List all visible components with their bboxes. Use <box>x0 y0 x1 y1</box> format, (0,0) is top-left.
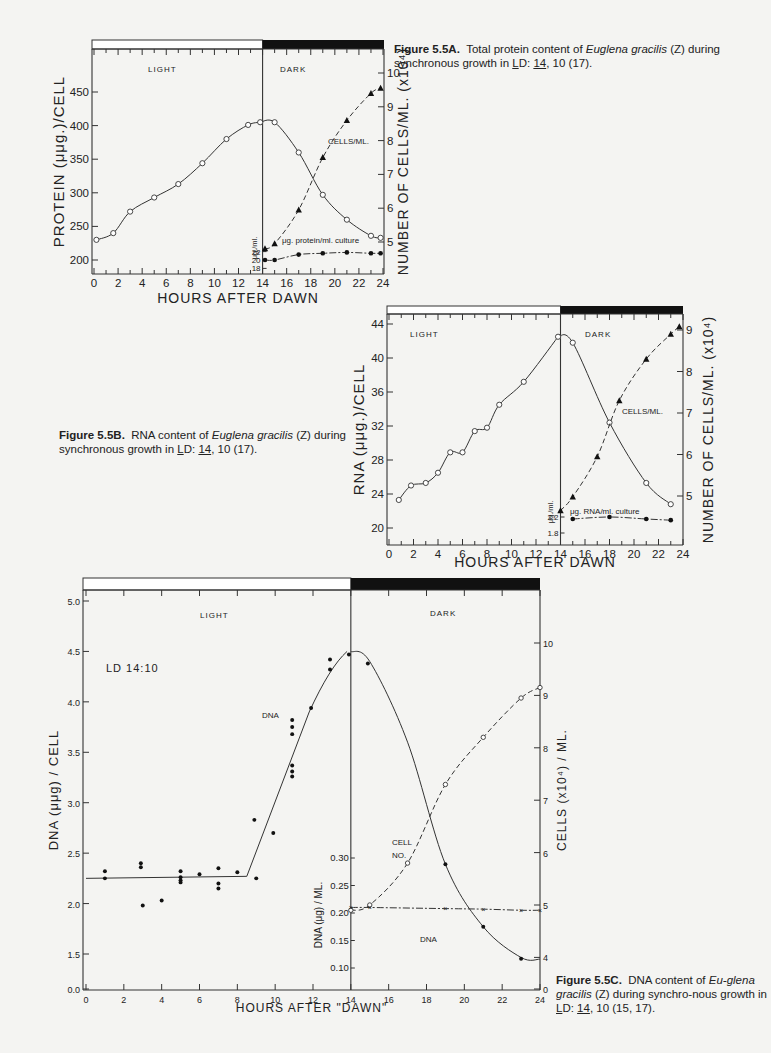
y-tick-label: 5.0 <box>67 597 80 607</box>
data-point <box>472 429 477 434</box>
y-right-tick-label: 6 <box>543 849 548 859</box>
data-point <box>448 450 453 455</box>
data-point <box>235 870 239 874</box>
data-point <box>377 85 383 91</box>
data-point <box>139 861 143 865</box>
data-point <box>570 493 576 499</box>
data-point <box>378 235 383 240</box>
data-point <box>290 718 294 722</box>
data-point <box>128 209 133 214</box>
dark-period-bar <box>561 306 684 314</box>
data-point <box>252 818 256 822</box>
caption-figure-5-5c: Figure 5.5C. DNA content of Eu-glena gra… <box>556 973 771 1015</box>
data-point <box>521 379 526 384</box>
y-tick-label: 24 <box>371 488 384 500</box>
y-right-tick-label: 7 <box>387 168 393 180</box>
caption-text: , 10 (17). <box>211 443 257 455</box>
data-point <box>555 334 560 339</box>
data-point <box>160 899 164 903</box>
data-point <box>200 161 205 166</box>
caption-text: , 10 (17). <box>546 57 592 69</box>
data-point <box>594 453 600 459</box>
inset-tick-label: 1.8 <box>547 529 559 538</box>
caption-text: Total protein content of <box>466 43 586 55</box>
y-right-axis-label: CELLS (x10⁴) / ML. <box>555 729 569 851</box>
data-point <box>290 732 294 736</box>
x-tick-label: 4 <box>435 548 442 560</box>
data-point <box>179 880 183 884</box>
inset-tick-label: 18 <box>252 264 261 273</box>
data-point <box>368 233 373 238</box>
x-tick-label: 22 <box>497 995 507 1005</box>
data-point <box>405 861 409 865</box>
x-tick-label: 22 <box>652 548 665 560</box>
data-point <box>344 117 350 123</box>
y-tick-label: 3.0 <box>67 799 80 809</box>
y-right-axis-label: NUMBER OF CELLS/ML. (x10⁴) <box>700 316 716 543</box>
inset-tick-label: 0.30 <box>330 852 349 863</box>
x-tick-label: 20 <box>328 277 341 289</box>
data-point <box>290 769 294 773</box>
caption-label: Figure 5.5C. <box>556 974 622 986</box>
y-tick-label: 40 <box>371 352 384 364</box>
data-point <box>224 136 229 141</box>
y-right-tick-label: 10 <box>543 639 553 649</box>
data-point <box>103 869 107 873</box>
data-point: × <box>538 907 542 914</box>
region-label-light: LIGHT <box>410 330 439 339</box>
y-right-tick-label: 8 <box>387 135 393 147</box>
x-tick-label: 0 <box>386 548 392 560</box>
data-point <box>481 925 485 929</box>
data-point <box>246 122 251 127</box>
data-point <box>396 497 401 502</box>
x-tick-label: 24 <box>535 995 545 1005</box>
y-right-tick-label: 4 <box>543 953 548 963</box>
series-1 <box>349 685 543 912</box>
data-point <box>607 515 612 520</box>
series-label: μg. protein/ml. culture <box>282 236 360 245</box>
caption-text: (Z) during synchro-nous growth in <box>592 988 767 1000</box>
ld-annotation: LD 14:10 <box>106 662 159 674</box>
series-label: DNA <box>420 935 438 944</box>
data-point <box>271 831 275 835</box>
inset-tick-label: 0.10 <box>330 962 349 973</box>
series-2 <box>263 250 383 262</box>
data-point <box>309 706 313 710</box>
y-axis-label: DNA (μμg) / CELL <box>46 730 61 851</box>
data-point <box>258 120 263 125</box>
x-tick-label: 6 <box>163 277 169 289</box>
data-point <box>435 470 440 475</box>
y-tick-label: 2.5 <box>67 849 80 859</box>
y-tick-label: 4.0 <box>67 698 80 708</box>
x-tick-label: 6 <box>197 995 202 1005</box>
data-point <box>152 195 157 200</box>
x-tick-label: 18 <box>304 277 317 289</box>
data-point <box>408 483 413 488</box>
series-label: CELL <box>392 838 413 847</box>
chart-protein: 0246810121416182022242002503003504004505… <box>50 40 411 306</box>
data-point <box>320 154 326 160</box>
caption-text: DNA content of <box>628 974 709 986</box>
inset-tick-label: 0.20 <box>330 907 349 918</box>
series-label: NO. <box>392 851 406 860</box>
series-1 <box>262 85 384 252</box>
data-point <box>519 696 523 700</box>
y-tick-label: 400 <box>70 120 89 132</box>
caption-text: , 10 (15, 17). <box>590 1002 655 1014</box>
y-right-tick-label: 9 <box>387 101 393 113</box>
data-point <box>328 658 332 662</box>
region-label-light: LIGHT <box>200 611 229 620</box>
data-point <box>668 518 673 523</box>
x-tick-label: 2 <box>121 995 126 1005</box>
data-point <box>538 685 542 689</box>
caption-label: Figure 5.5B. <box>59 429 125 441</box>
data-point: × <box>519 907 523 914</box>
caption-text: 14 <box>533 57 546 69</box>
data-point <box>254 876 258 880</box>
y-right-tick-label: 7 <box>543 796 548 806</box>
y-right-tick-label: 5 <box>543 901 548 911</box>
data-point <box>347 652 351 656</box>
y-tick-label: 32 <box>371 420 384 432</box>
data-point <box>460 450 465 455</box>
series-2: ×××××× <box>349 904 542 914</box>
